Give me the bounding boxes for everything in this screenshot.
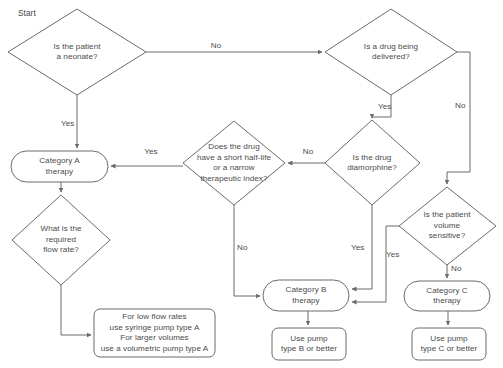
flowchart-canvas: Start Is the patient a neonate? Is a dru… <box>0 0 503 368</box>
node-category-b[interactable] <box>263 280 349 311</box>
node-pump-c[interactable] <box>412 328 486 360</box>
edge-diamorphine-yes <box>352 205 372 289</box>
node-drug-delivered[interactable] <box>325 9 457 95</box>
edge-volume-sensitive-yes <box>352 226 399 302</box>
node-pump-b[interactable] <box>272 328 346 360</box>
edge-drug-delivered-yes <box>372 95 391 118</box>
node-pump-a[interactable] <box>94 309 215 357</box>
node-flow-rate[interactable] <box>12 195 110 285</box>
edge-half-life-no <box>234 205 260 296</box>
node-category-a[interactable] <box>11 151 108 182</box>
node-half-life[interactable] <box>183 121 285 205</box>
node-category-c[interactable] <box>404 281 490 311</box>
edge-flow-rate-pump-a <box>61 285 91 335</box>
node-neonate[interactable] <box>8 9 146 95</box>
node-volume-sensitive[interactable] <box>399 187 496 265</box>
